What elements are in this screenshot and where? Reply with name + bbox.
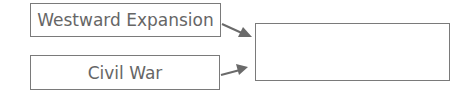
arrow-icon bbox=[221, 64, 248, 75]
arrows bbox=[0, 0, 476, 99]
arrow-icon bbox=[222, 24, 252, 37]
